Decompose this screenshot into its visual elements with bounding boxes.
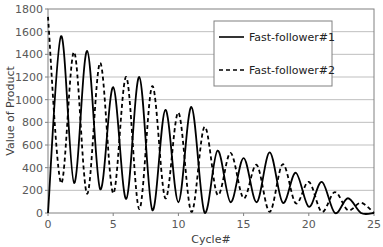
y-tick-label: 1800 bbox=[15, 3, 43, 16]
y-tick-label: 200 bbox=[22, 184, 43, 197]
x-tick-label: 15 bbox=[237, 218, 251, 231]
x-tick-label: 20 bbox=[302, 218, 316, 231]
x-axis-ticks: 0510152025 bbox=[45, 213, 382, 231]
x-tick-label: 0 bbox=[45, 218, 52, 231]
y-tick-label: 600 bbox=[22, 139, 43, 152]
x-tick-label: 5 bbox=[110, 218, 117, 231]
x-tick-label: 25 bbox=[367, 218, 381, 231]
x-axis-label: Cycle# bbox=[191, 233, 230, 246]
y-tick-label: 1200 bbox=[15, 71, 43, 84]
line-chart: 020040060080010001200140016001800 051015… bbox=[0, 0, 383, 247]
y-tick-label: 1600 bbox=[15, 26, 43, 39]
legend-label-series-2: Fast-follower#2 bbox=[249, 64, 335, 77]
legend: Fast-follower#1 Fast-follower#2 bbox=[214, 21, 335, 86]
y-axis-label: Value of Product bbox=[4, 66, 17, 156]
y-tick-label: 1400 bbox=[15, 48, 43, 61]
y-tick-label: 0 bbox=[36, 207, 43, 220]
y-tick-label: 1000 bbox=[15, 94, 43, 107]
y-tick-label: 400 bbox=[22, 162, 43, 175]
y-axis-ticks: 020040060080010001200140016001800 bbox=[15, 3, 48, 220]
legend-label-series-1: Fast-follower#1 bbox=[249, 31, 335, 44]
x-tick-label: 10 bbox=[171, 218, 185, 231]
y-tick-label: 800 bbox=[22, 116, 43, 129]
